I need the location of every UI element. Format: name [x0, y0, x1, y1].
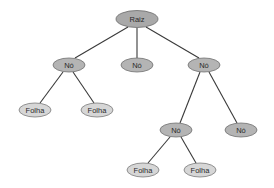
tree-edges: [40, 27, 237, 163]
node-label: Nó: [236, 126, 246, 135]
edge-n1-f2: [73, 72, 94, 103]
node-label: Folha: [134, 166, 154, 175]
internal-node-n1: Nó: [53, 58, 85, 72]
root-node: Raiz: [116, 11, 158, 28]
node-label: Folha: [88, 106, 108, 115]
internal-node-n2: Nó: [121, 58, 153, 72]
internal-node-n5: Nó: [225, 123, 257, 137]
node-label: Folha: [191, 166, 211, 175]
node-label: Nó: [132, 61, 142, 70]
node-label: Raiz: [129, 15, 144, 24]
leaf-node-f1: Folha: [19, 103, 51, 117]
leaf-node-f2: Folha: [81, 103, 113, 117]
edge-n1-f1: [40, 72, 63, 103]
leaf-node-f3: Folha: [127, 163, 159, 177]
edge-root-n1: [75, 27, 128, 58]
edge-n3-n4: [180, 72, 200, 123]
leaf-node-f4: Folha: [184, 163, 216, 177]
node-label: Nó: [199, 61, 209, 70]
tree-diagram: RaizNóNóNóFolhaFolhaNóNóFolhaFolha: [0, 0, 274, 188]
internal-node-n3: Nó: [188, 58, 220, 72]
edge-root-n3: [146, 27, 199, 58]
internal-node-n4: Nó: [160, 123, 192, 137]
node-label: Folha: [26, 106, 46, 115]
node-label: Nó: [171, 126, 181, 135]
edge-n4-f3: [148, 137, 170, 163]
node-label: Nó: [64, 61, 74, 70]
edge-n3-n5: [209, 72, 237, 123]
edge-n4-f4: [181, 137, 196, 163]
